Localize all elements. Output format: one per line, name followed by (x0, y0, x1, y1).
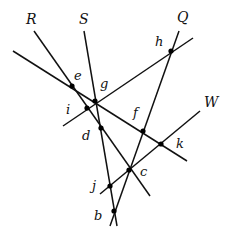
line-label-S: S (79, 11, 89, 27)
line-label-R: R (25, 11, 37, 27)
point-label-i: i (66, 102, 70, 117)
point-b (111, 208, 116, 213)
point-i (84, 105, 89, 110)
point-label-b: b (94, 208, 102, 223)
point-c (126, 167, 131, 172)
point-e (69, 83, 74, 88)
point-label-f: f (132, 105, 140, 120)
point-label-c: c (140, 164, 148, 179)
point-label-k: k (176, 136, 184, 151)
point-f (140, 128, 145, 133)
point-g (92, 98, 97, 103)
point-k (158, 141, 163, 146)
point-label-j: j (89, 178, 96, 193)
lines-group (13, 31, 200, 226)
point-j (107, 183, 112, 188)
point-h (168, 48, 173, 53)
line-Q (110, 31, 179, 226)
line-W (100, 111, 200, 194)
point-d (98, 125, 103, 130)
point-label-h: h (155, 34, 163, 49)
point-label-g: g (100, 76, 108, 91)
line-label-Q: Q (177, 9, 189, 25)
point-label-d: d (82, 128, 90, 143)
line-label-W: W (204, 94, 220, 110)
line-diagram: RSQWegihdfkcjb (0, 0, 231, 244)
point-label-e: e (74, 68, 82, 83)
